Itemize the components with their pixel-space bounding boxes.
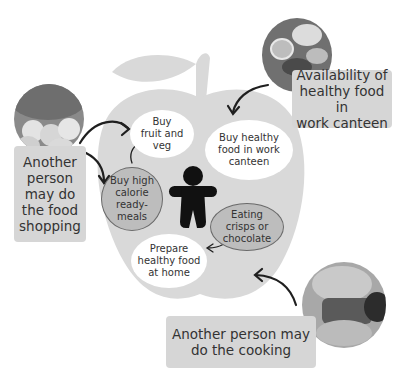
node-buy-ready-meals: Buy high calorie ready- meals [101,167,163,231]
apple-leaf [112,55,196,82]
node-eating-crisps: Eating crisps or chocolate [210,203,284,251]
factor-food-shopping: Another person may do the food shopping [14,146,86,242]
factor-cooking: Another person may do the cooking [166,316,316,368]
apple-stem [196,53,210,100]
fruit-market-photo [14,84,84,154]
node-prepare-healthy: Prepare healthy food at home [131,234,207,288]
node-buy-healthy-canteen: Buy healthy food in work canteen [205,120,293,180]
factor-canteen-availability: Availability of healthy food in work can… [292,70,392,128]
node-buy-fruit-veg: Buy fruit and veg [130,110,194,158]
